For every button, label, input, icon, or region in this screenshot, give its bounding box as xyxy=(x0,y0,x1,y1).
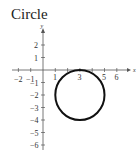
svg-text:−2: −2 xyxy=(30,91,39,100)
svg-text:5: 5 xyxy=(102,73,106,82)
svg-text:−5: −5 xyxy=(30,129,39,138)
svg-text:−4: −4 xyxy=(30,116,39,125)
svg-text:−2: −2 xyxy=(14,75,23,84)
svg-text:1: 1 xyxy=(34,54,38,63)
svg-text:2: 2 xyxy=(34,41,38,50)
y-axis-label: y xyxy=(40,23,44,29)
x-axis-arrow-icon xyxy=(127,68,131,72)
svg-text:6: 6 xyxy=(115,73,119,82)
y-tick-labels: 2 1 −1 −2 −3 −4 −5 −6 xyxy=(30,41,39,150)
chart-plot: x y −2 −1 1 3 5 6 2 1 −1 −2 −3 xyxy=(0,0,139,155)
svg-text:−3: −3 xyxy=(30,104,39,113)
svg-text:−6: −6 xyxy=(30,141,39,150)
x-axis-label: x xyxy=(132,67,136,73)
svg-text:1: 1 xyxy=(53,73,57,82)
svg-text:−1: −1 xyxy=(30,79,39,88)
svg-text:3: 3 xyxy=(78,73,82,82)
